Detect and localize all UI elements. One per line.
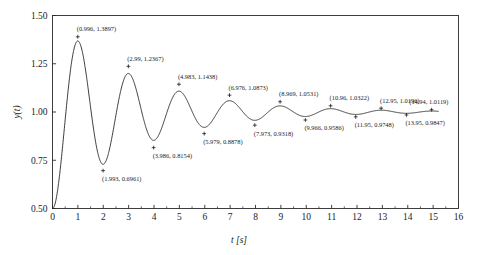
x-tick-label: 15: [428, 212, 438, 222]
x-axis-tick-labels: 012345678910111213141516: [50, 212, 463, 222]
extremum-marker-max: [177, 82, 181, 86]
x-tick-label: 6: [202, 212, 207, 222]
x-tick-label: 13: [378, 212, 388, 222]
extremum-marker-max: [379, 106, 383, 110]
x-tick-label: 12: [352, 212, 362, 222]
extrema-annotations: (0.996, 1.3897)(1.993, 0.6961)(2.99, 1.2…: [77, 25, 449, 183]
extremum-marker-max: [228, 93, 232, 97]
x-tick-label: 0: [50, 212, 55, 222]
extremum-marker-max: [76, 35, 80, 39]
x-axis-label: t [s]: [231, 235, 247, 245]
extremum-marker-min: [202, 132, 206, 136]
x-tick-label: 11: [327, 212, 336, 222]
x-tick-label: 2: [101, 212, 106, 222]
extremum-label: (13.95, 0.9847): [405, 119, 444, 127]
extremum-marker-min: [101, 169, 105, 173]
y-axis-label: y(t): [12, 105, 23, 119]
y-tick-label: 1.00: [31, 107, 48, 117]
x-tick-label: 14: [403, 212, 413, 222]
y-tick-label: 1.50: [31, 11, 48, 21]
extremum-label: (0.996, 1.3897): [77, 25, 116, 33]
x-tick-label: 7: [228, 212, 233, 222]
x-tick-label: 16: [454, 212, 464, 222]
damped-oscillation-chart: 012345678910111213141516 0.500.751.001.2…: [0, 0, 478, 255]
y-tick-label: 0.75: [31, 156, 48, 166]
chart-page: 012345678910111213141516 0.500.751.001.2…: [0, 0, 478, 255]
y-axis-ticks: [53, 16, 57, 209]
extremum-label: (8.969, 1.0531): [279, 90, 318, 98]
extremum-label: (14.94, 1.0119): [409, 98, 448, 106]
x-tick-label: 3: [126, 212, 131, 222]
extremum-label: (4.983, 1.1438): [178, 73, 217, 81]
x-tick-label: 4: [152, 212, 157, 222]
extremum-label: (2.99, 1.2367): [127, 55, 163, 63]
extremum-label: (7.973, 0.9318): [254, 130, 293, 138]
y-axis-tick-labels: 0.500.751.001.251.50: [31, 11, 48, 214]
extremum-label: (6.976, 1.0873): [229, 84, 268, 92]
extremum-label: (1.993, 0.6961): [102, 175, 141, 183]
extremum-label: (11.95, 0.9748): [355, 121, 394, 129]
extremum-marker-max: [278, 100, 282, 104]
extremum-label: (3.986, 0.8154): [153, 152, 192, 160]
x-tick-label: 9: [279, 212, 284, 222]
extremum-marker-max: [329, 104, 333, 108]
extremum-marker-min: [303, 118, 307, 122]
y-tick-label: 0.50: [31, 204, 48, 214]
x-tick-label: 5: [177, 212, 182, 222]
extremum-marker-min: [152, 146, 156, 150]
y-tick-label: 1.25: [31, 59, 48, 69]
extremum-label: (9.966, 0.9586): [304, 124, 343, 132]
x-tick-label: 1: [76, 212, 81, 222]
extremum-marker-max: [126, 64, 130, 68]
extremum-marker-min: [253, 123, 257, 127]
x-tick-label: 10: [302, 212, 312, 222]
extremum-marker-min: [354, 115, 358, 119]
x-tick-label: 8: [253, 212, 258, 222]
extremum-label: (5.979, 0.8878): [203, 138, 242, 146]
extremum-label: (10.96, 1.0322): [330, 94, 369, 102]
x-axis-ticks: [53, 205, 459, 209]
